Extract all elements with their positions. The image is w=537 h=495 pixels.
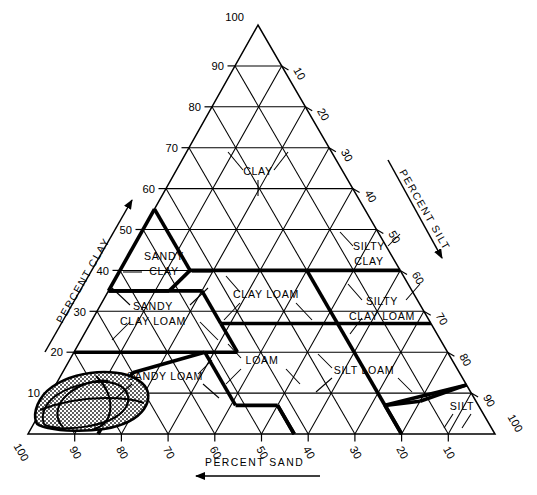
class-label-sandy-clay-loam: SANDY: [133, 300, 173, 312]
soil-texture-triangle-figure: CLAYSANDYCLAYSILTYCLAYSANDYCLAY LOAMCLAY…: [0, 0, 537, 495]
clay-tick-label-100: 100: [225, 11, 244, 23]
class-label-silty-clay-line2: CLAY: [354, 255, 384, 267]
clay-tick-label-50: 50: [120, 224, 132, 236]
class-label-sandy-clay: SANDY: [144, 250, 184, 262]
class-label-silty-clay-loam-line2: CLAY LOAM: [349, 310, 415, 322]
class-label-loam: LOAM: [246, 354, 279, 366]
class-label-clay: CLAY: [243, 165, 273, 177]
ternary-diagram-svg: CLAYSANDYCLAYSILTYCLAYSANDYCLAY LOAMCLAY…: [0, 0, 537, 495]
class-label-silt-loam: SILT LOAM: [334, 364, 395, 376]
class-label-silty-clay: SILTY: [353, 240, 385, 252]
clay-tick-label-80: 80: [189, 101, 201, 113]
class-label-clay-loam: CLAY LOAM: [233, 288, 299, 300]
percent-sand-label: PERCENT SAND: [205, 457, 304, 468]
clay-tick-label-20: 20: [51, 346, 63, 358]
class-label-silty-clay-loam: SILTY: [366, 295, 398, 307]
class-label-silt: SILT: [450, 400, 474, 412]
clay-tick-label-70: 70: [166, 142, 178, 154]
clay-tick-label-10: 10: [28, 387, 40, 399]
class-label-sandy-clay-line2: CLAY: [149, 265, 179, 277]
clay-tick-label-90: 90: [212, 60, 224, 72]
class-label-sandy-loam: SANDY LOAM: [127, 370, 203, 382]
clay-tick-label-30: 30: [74, 306, 86, 318]
clay-tick-label-40: 40: [97, 265, 109, 277]
class-label-sandy-clay-loam-line2: CLAY LOAM: [120, 315, 186, 327]
clay-tick-label-60: 60: [143, 183, 155, 195]
